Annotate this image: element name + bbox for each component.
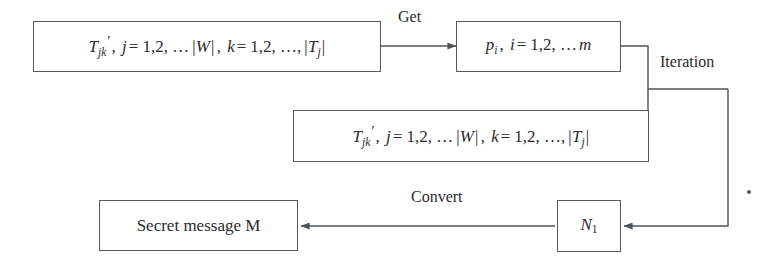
node-secret-message: Secret message M — [99, 200, 298, 251]
secret-message-label: Secret message M — [137, 216, 261, 236]
formula-pi: pi, i=1,2, …m — [486, 36, 592, 56]
formula-tjk-top: Tjk′, j=1,2, …|W|, k=1,2, …,|Tj| — [89, 34, 326, 58]
scan-speck — [747, 190, 751, 194]
node-n1: N1 — [557, 200, 621, 252]
node-tjk-mid: Tjk′, j=1,2, …|W|, k=1,2, …,|Tj| — [293, 110, 649, 162]
formula-n1: N1 — [580, 216, 597, 236]
formula-tjk-mid: Tjk′, j=1,2, …|W|, k=1,2, …,|Tj| — [353, 124, 590, 148]
edge-label-get: Get — [398, 8, 421, 26]
edge-label-iteration: Iteration — [660, 53, 714, 71]
node-tjk-top: Tjk′, j=1,2, …|W|, k=1,2, …,|Tj| — [33, 21, 381, 72]
node-pi: pi, i=1,2, …m — [456, 21, 621, 72]
edge-label-convert: Convert — [411, 188, 463, 206]
flowchart-diagram: Tjk′, j=1,2, …|W|, k=1,2, …,|Tj| pi, i=1… — [0, 0, 770, 266]
